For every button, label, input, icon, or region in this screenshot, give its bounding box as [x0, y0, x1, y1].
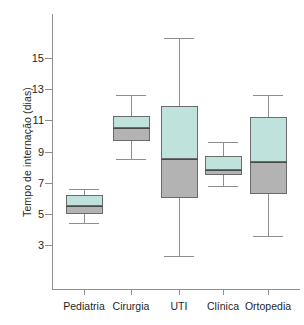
box-upper-quartile: [250, 117, 287, 162]
x-tick-ortopedia: [268, 289, 269, 295]
lower-whisker: [131, 141, 132, 160]
lower-whisker-cap: [164, 256, 194, 257]
y-tick-label-7: 7: [22, 177, 44, 189]
upper-whisker-cap: [208, 142, 238, 143]
x-tick-clínica: [223, 289, 224, 295]
y-tick-7: [45, 183, 52, 184]
lower-whisker-cap: [208, 186, 238, 187]
median-line: [161, 159, 198, 160]
lower-whisker-cap: [116, 159, 146, 160]
boxplot-chart: Tempo de internação (dias) 3579111315 Pe…: [0, 0, 304, 325]
median-line: [113, 128, 150, 129]
x-tick-cirurgia: [131, 289, 132, 295]
upper-whisker-cap: [253, 95, 283, 96]
median-line: [250, 162, 287, 163]
upper-whisker-cap: [116, 95, 146, 96]
x-axis-label-uti: UTI: [171, 300, 188, 312]
x-axis-label-pediatria: Pediatria: [63, 300, 104, 312]
y-tick-label-9: 9: [22, 146, 44, 158]
y-tick-11: [45, 120, 52, 121]
box-lower-quartile: [161, 159, 198, 198]
median-line: [66, 206, 103, 207]
upper-whisker-cap: [164, 38, 194, 39]
y-axis-line: [52, 14, 53, 290]
x-axis-label-ortopedia: Ortopedia: [245, 300, 291, 312]
upper-whisker: [268, 95, 269, 117]
x-axis-label-clínica: Clínica: [207, 300, 239, 312]
box-lower-quartile: [113, 128, 150, 140]
y-tick-label-3: 3: [22, 239, 44, 251]
y-tick-label-5: 5: [22, 208, 44, 220]
x-axis-line: [52, 289, 300, 290]
y-tick-5: [45, 214, 52, 215]
box-lower-quartile: [250, 162, 287, 193]
x-tick-uti: [179, 289, 180, 295]
upper-whisker: [179, 38, 180, 107]
lower-whisker-cap: [253, 236, 283, 237]
y-tick-label-11: 11: [22, 114, 44, 126]
y-tick-15: [45, 58, 52, 59]
median-line: [205, 170, 242, 171]
upper-whisker: [131, 95, 132, 115]
y-tick-13: [45, 89, 52, 90]
box-upper-quartile: [113, 116, 150, 128]
lower-whisker: [84, 214, 85, 223]
y-tick-label-13: 13: [22, 83, 44, 95]
lower-whisker-cap: [69, 223, 99, 224]
lower-whisker: [179, 198, 180, 256]
y-tick-9: [45, 152, 52, 153]
upper-whisker: [223, 142, 224, 156]
box-lower-quartile: [66, 206, 103, 214]
lower-whisker: [268, 194, 269, 236]
x-tick-pediatria: [84, 289, 85, 295]
box-upper-quartile: [66, 195, 103, 206]
box-upper-quartile: [161, 106, 198, 159]
lower-whisker: [223, 175, 224, 186]
x-axis-label-cirurgia: Cirurgia: [113, 300, 150, 312]
y-tick-label-15: 15: [22, 52, 44, 64]
box-upper-quartile: [205, 156, 242, 170]
y-tick-3: [45, 245, 52, 246]
upper-whisker-cap: [69, 189, 99, 190]
